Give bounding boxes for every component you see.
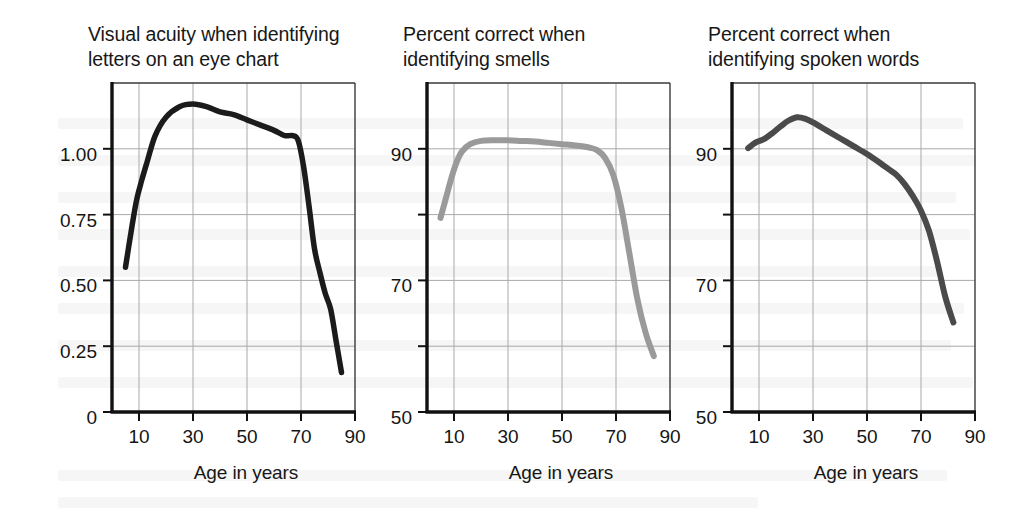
tick-marks: [723, 149, 975, 421]
tick-label-y: 50: [391, 407, 412, 428]
tick-label-y: 0.25: [60, 341, 97, 362]
axis-frame: [731, 82, 977, 413]
tick-label-x: 50: [551, 426, 572, 447]
tick-label-y: 0.75: [60, 210, 97, 231]
xaxis-title-spoken-words: Age in years: [732, 462, 1000, 484]
tick-label-x: 10: [443, 426, 464, 447]
tick-label-y: 50: [696, 407, 717, 428]
tick-label-x: 30: [802, 426, 823, 447]
tick-label-x: 70: [605, 426, 626, 447]
panel-title-smells: Percent correct when identifying smells: [403, 22, 703, 72]
panel-smells: Percent correct when identifying smells …: [403, 0, 703, 513]
tick-label-x: 10: [128, 426, 149, 447]
chart-panels: Visual acuity when identifying letters o…: [0, 0, 1035, 513]
tick-labels: 00.250.500.751.001030507090: [60, 144, 366, 447]
panel-spoken-words: Percent correct when identifying spoken …: [708, 0, 1018, 513]
tick-label-y: 90: [391, 144, 412, 165]
gridlines: [112, 83, 355, 412]
tick-label-y: 90: [696, 144, 717, 165]
tick-label-x: 70: [910, 426, 931, 447]
panel-title-spoken-words: Percent correct when identifying spoken …: [708, 22, 1008, 72]
line-chart-smells: 5070901030507090: [427, 83, 727, 463]
plot-area-smells: 5070901030507090: [427, 83, 727, 463]
tick-label-y: 70: [391, 275, 412, 296]
tick-label-y: 1.00: [60, 144, 97, 165]
panel-title-visual-acuity: Visual acuity when identifying letters o…: [88, 22, 388, 72]
data-series: [441, 140, 654, 356]
tick-label-y: 0: [86, 407, 97, 428]
tick-label-x: 30: [182, 426, 203, 447]
axis-frame: [111, 82, 357, 413]
tick-label-x: 90: [344, 426, 365, 447]
line-chart-visual-acuity: 00.250.500.751.001030507090: [112, 83, 412, 463]
line-chart-spoken-words: 5070901030507090: [732, 83, 1032, 463]
tick-label-x: 90: [964, 426, 985, 447]
tick-label-y: 0.50: [60, 275, 97, 296]
gridlines: [427, 83, 670, 412]
tick-label-x: 50: [236, 426, 257, 447]
tick-label-x: 90: [659, 426, 680, 447]
data-series: [126, 104, 342, 372]
xaxis-title-smells: Age in years: [427, 462, 695, 484]
axis-frame: [426, 82, 672, 413]
tick-label-x: 10: [748, 426, 769, 447]
panel-visual-acuity: Visual acuity when identifying letters o…: [88, 0, 388, 513]
series-line: [748, 117, 953, 322]
tick-label-y: 70: [696, 275, 717, 296]
series-line: [441, 140, 654, 356]
xaxis-title-visual-acuity: Age in years: [112, 462, 380, 484]
plot-area-visual-acuity: 00.250.500.751.001030507090: [112, 83, 412, 463]
tick-label-x: 50: [856, 426, 877, 447]
tick-label-x: 70: [290, 426, 311, 447]
series-line: [126, 104, 342, 372]
plot-area-spoken-words: 5070901030507090: [732, 83, 1032, 463]
gridlines: [732, 83, 975, 412]
data-series: [748, 117, 953, 322]
tick-label-x: 30: [497, 426, 518, 447]
